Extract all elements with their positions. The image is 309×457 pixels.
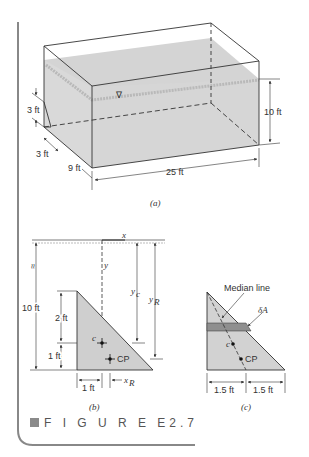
strip-dA (207, 323, 251, 331)
panel-a-tank: ∇ 3 ft 3 ft 9 ft 25 ft 10 ft (a) (27, 23, 282, 208)
dim-upper: 2 ft (55, 313, 68, 323)
dim-left: 1.5 ft (214, 385, 235, 395)
dim-yc-sub: c (136, 289, 140, 299)
cp-dot (239, 357, 243, 361)
axis-y-label: y (103, 260, 108, 270)
panel-b-label: (b) (89, 402, 100, 412)
dim-gate-height: 3 ft (27, 105, 40, 115)
dim-water-depth: 10 ft (264, 107, 282, 117)
centroid-label: c (92, 333, 96, 343)
dim-right: 1.5 ft (253, 385, 274, 395)
break-symbol: ≈ (28, 264, 38, 269)
cp-label: CP (117, 354, 130, 364)
dim-yc: y (130, 286, 135, 296)
dim-lower: 1 ft (48, 351, 61, 361)
dim-xR: x (123, 375, 128, 385)
dim-yR-sub: R (153, 297, 160, 307)
panel-c-strip-detail: Median line δA c CP 1.5 ft 1.5 ft (c) (207, 283, 285, 412)
centroid-dot (231, 342, 235, 346)
gate-triangle (77, 291, 153, 370)
dA-label: δA (258, 305, 268, 315)
dim-total-depth: 10 ft (22, 303, 40, 313)
dim-base: 1 ft (82, 383, 95, 393)
dim-depth: 9 ft (68, 163, 81, 173)
figure-caption: F I G U R E E2.7 (44, 416, 198, 430)
free-surface-symbol: ∇ (115, 90, 123, 100)
dim-yR: y (148, 294, 153, 304)
figure-e2-7: ∇ 3 ft 3 ft 9 ft 25 ft 10 ft (a) x y (0, 0, 309, 457)
dim-xR-sub: R (128, 378, 135, 388)
panel-b-gate-detail: x y ≈ 10 ft 2 ft 1 ft 1 ft y c y (22, 230, 165, 412)
dim-gate-width: 3 ft (36, 149, 49, 159)
panel-a-label: (a) (150, 198, 161, 208)
centroid-label-c: c (226, 339, 230, 349)
median-line-label: Median line (224, 283, 270, 293)
dim-length: 25 ft (166, 167, 184, 177)
panel-c-label: (c) (241, 402, 251, 412)
caption-marker (30, 418, 39, 427)
cp-label-c: CP (245, 354, 258, 364)
axis-x-label: x (121, 230, 126, 240)
